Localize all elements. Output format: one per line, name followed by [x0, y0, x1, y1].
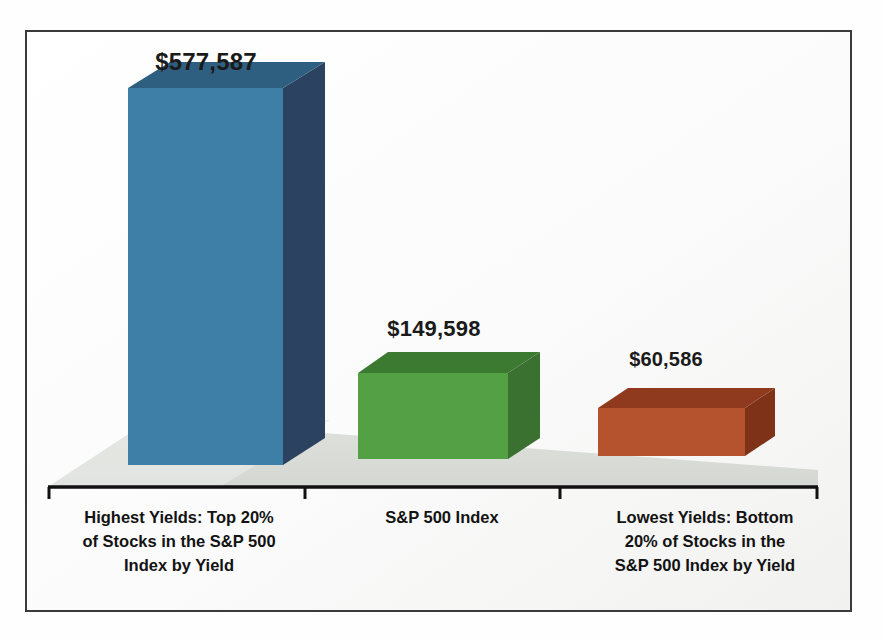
bar-value-label-sp500-index: $149,598 [358, 316, 510, 342]
bar-value-label-lowest-yields: $60,586 [598, 348, 734, 371]
x-axis-category-label-highest-yields: Highest Yields: Top 20% of Stocks in the… [48, 505, 310, 577]
x-axis-category-label-lowest-yields: Lowest Yields: Bottom 20% of Stocks in t… [575, 505, 835, 577]
category-label-line: Highest Yields: Top 20% [48, 505, 310, 529]
category-label-line: S&P 500 Index by Yield [575, 553, 835, 577]
chart-container: $577,587 $149,598 $60,586 Highest Yields… [0, 0, 883, 640]
category-label-line: Lowest Yields: Bottom [575, 505, 835, 529]
bar-value-label-highest-yields: $577,587 [128, 48, 284, 76]
category-label-line: of Stocks in the S&P 500 [48, 529, 310, 553]
category-label-line: 20% of Stocks in the [575, 529, 835, 553]
x-axis-category-label-sp500-index: S&P 500 Index [318, 505, 566, 529]
category-label-line: Index by Yield [48, 553, 310, 577]
category-label-line: S&P 500 Index [318, 505, 566, 529]
